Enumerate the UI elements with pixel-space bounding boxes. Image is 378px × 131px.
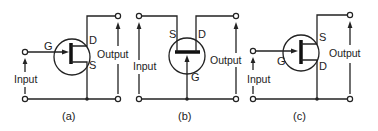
input-terminal-bottom: [250, 96, 255, 101]
source-label: S: [89, 59, 96, 71]
gate-arrow-icon: [291, 49, 298, 54]
junction-dot: [185, 97, 189, 101]
input-arrow-icon: [23, 58, 28, 64]
drain-wire: [301, 60, 317, 99]
gate-label: G: [191, 71, 200, 83]
output-terminal-bottom: [233, 96, 238, 101]
source-label: S: [319, 31, 326, 43]
input-terminal-top: [250, 48, 255, 53]
drain-label: D: [319, 60, 327, 72]
input-terminal-top: [22, 49, 27, 54]
output-label: Output: [329, 47, 361, 59]
input-terminal-bottom: [22, 96, 27, 101]
input-label: Input: [247, 73, 270, 85]
input-label: Input: [14, 73, 37, 85]
panel-caption: (b): [178, 110, 191, 122]
gate-label: G: [44, 40, 53, 52]
input-label: Input: [133, 60, 156, 72]
panel-a: G D S Input Output (a): [14, 13, 129, 122]
output-label: Output: [97, 48, 129, 60]
gate-arrow-icon: [62, 50, 69, 55]
input-terminal-top: [136, 13, 141, 18]
fet-circuit-diagram: G D S Input Output (a) S: [0, 0, 378, 131]
input-arrow-icon: [137, 22, 142, 29]
output-terminal-bottom: [347, 96, 352, 101]
gate-label: G: [277, 55, 286, 67]
output-terminal-bottom: [115, 96, 120, 101]
panel-c: G S D Input Output (c): [247, 12, 361, 122]
output-terminal-top: [115, 13, 120, 18]
output-arrow-icon: [348, 21, 353, 28]
output-label: Output: [210, 54, 242, 66]
source-wire: [71, 62, 87, 99]
panel-b: S D G Input Output (b): [133, 13, 242, 122]
output-arrow-icon: [234, 22, 239, 29]
junction-dot: [315, 97, 319, 101]
source-label: S: [169, 28, 176, 40]
panel-caption: (c): [293, 110, 306, 122]
panel-caption: (a): [62, 110, 75, 122]
drain-label: D: [89, 34, 97, 46]
output-terminal-top: [347, 12, 352, 17]
output-terminal-top: [233, 13, 238, 18]
output-arrow-icon: [116, 22, 121, 29]
input-arrow-icon: [251, 57, 256, 63]
drain-label: D: [198, 28, 206, 40]
junction-dot: [85, 97, 89, 101]
gate-arrow-icon: [185, 55, 190, 62]
input-terminal-bottom: [136, 96, 141, 101]
